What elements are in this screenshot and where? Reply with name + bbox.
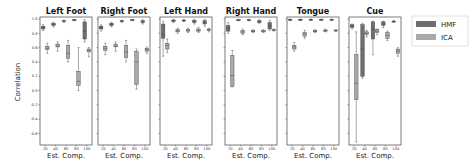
y-tick-label: -0.6	[30, 132, 38, 136]
x-tick-label: 20	[163, 147, 168, 151]
x-tick-label: 100	[83, 147, 91, 151]
panel-title: Cue	[367, 7, 385, 16]
x-axis-label: Est. Comp.	[167, 152, 205, 160]
box-hmf	[131, 19, 135, 20]
box-hmf	[237, 19, 241, 20]
x-axis-label: Est. Comp.	[232, 152, 270, 160]
y-tick-label: 1.0	[32, 17, 38, 21]
panel-title: Right Hand	[226, 7, 277, 16]
x-tick-label: 60	[184, 147, 189, 151]
x-tick-label: 60	[122, 147, 127, 151]
x-tick-label: 80	[74, 147, 79, 151]
y-tick-label: 0.0	[32, 89, 38, 93]
y-tick-label: -0.2	[30, 103, 37, 107]
panel-tongue: Tongue20406080100Est. Comp.	[286, 7, 340, 160]
legend-label-hmf: HMF	[441, 21, 456, 29]
box-hmf	[330, 19, 334, 20]
box-hmf	[83, 20, 87, 42]
x-tick-label: 80	[383, 147, 388, 151]
x-tick-label: 60	[311, 147, 316, 151]
x-tick-label: 80	[259, 147, 264, 151]
box-hmf	[299, 19, 303, 20]
y-tick-label: 0.4	[32, 60, 38, 64]
x-tick-label: 40	[300, 147, 305, 151]
x-tick-label: 40	[173, 147, 178, 151]
legend-swatch-hmf	[416, 21, 436, 27]
y-tick-label: 0.6	[32, 46, 38, 50]
x-tick-label: 100	[141, 147, 149, 151]
y-tick-label: -0.4	[30, 117, 38, 121]
y-tick-label: 0.8	[32, 32, 38, 36]
panel-cue: Cue20406080100Est. Comp.	[348, 7, 402, 160]
legend-swatch-ica	[416, 34, 436, 40]
y-axis-label: Correlation	[14, 63, 22, 102]
x-tick-label: 20	[228, 147, 233, 151]
box-hmf	[320, 19, 324, 20]
box-ica	[334, 30, 338, 31]
y-tick-label: 0.2	[32, 74, 38, 78]
box-hmf	[288, 19, 292, 20]
x-tick-label: 20	[101, 147, 106, 151]
x-tick-label: 80	[321, 147, 326, 151]
x-tick-label: 60	[64, 147, 69, 151]
x-tick-label: 40	[238, 147, 243, 151]
panel-title: Left Hand	[164, 7, 208, 16]
x-tick-label: 100	[268, 147, 276, 151]
boxplot-figure: Left Foot1.00.80.60.40.20.0-0.2-0.4-0.62…	[0, 0, 472, 168]
x-tick-label: 60	[249, 147, 254, 151]
x-tick-label: 80	[132, 147, 137, 151]
x-tick-label: 20	[290, 147, 295, 151]
panel-title: Left Foot	[46, 7, 87, 16]
x-tick-label: 40	[111, 147, 116, 151]
panel-title: Tongue	[297, 7, 330, 16]
x-axis-label: Est. Comp.	[356, 152, 394, 160]
x-tick-label: 20	[43, 147, 48, 151]
x-axis-label: Est. Comp.	[105, 152, 143, 160]
box-ica	[231, 50, 235, 86]
legend-label-ica: ICA	[441, 34, 453, 42]
x-tick-label: 80	[194, 147, 199, 151]
box-hmf	[247, 19, 251, 20]
panel-right-foot: Right Foot20406080100Est. Comp.	[97, 7, 151, 160]
legend: HMF ICA	[412, 16, 468, 46]
x-tick-label: 40	[362, 147, 367, 151]
panels-group: Left Foot1.00.80.60.40.20.0-0.2-0.4-0.62…	[30, 7, 401, 160]
x-tick-label: 40	[53, 147, 58, 151]
panel-right-hand: Right Hand20406080100Est. Comp.	[224, 7, 278, 160]
box-hmf	[73, 19, 77, 20]
x-tick-label: 60	[373, 147, 378, 151]
panel-left-hand: Left Hand20406080100Est. Comp.	[159, 7, 213, 160]
x-tick-label: 100	[330, 147, 338, 151]
x-tick-label: 100	[392, 147, 400, 151]
x-axis-label: Est. Comp.	[294, 152, 332, 160]
x-axis-label: Est. Comp.	[47, 152, 85, 160]
x-tick-label: 20	[352, 147, 357, 151]
box-ica	[135, 49, 139, 89]
panel-left-foot: Left Foot1.00.80.60.40.20.0-0.2-0.4-0.62…	[30, 7, 92, 160]
x-tick-label: 100	[203, 147, 211, 151]
panel-title: Right Foot	[101, 7, 148, 16]
box-hmf	[309, 19, 313, 20]
box-hmf	[361, 23, 365, 78]
